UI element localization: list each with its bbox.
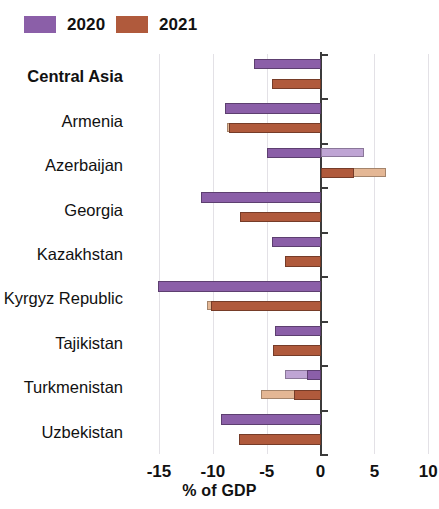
category-label: Kyrgyz Republic (0, 290, 123, 307)
bar-2021 (285, 256, 321, 266)
legend-label-2020: 2020 (67, 16, 105, 33)
category-tickmark (321, 276, 328, 278)
chart-legend: 2020 2021 (0, 0, 439, 46)
category-tickmark (321, 321, 328, 323)
category-tickmark (321, 98, 328, 100)
legend-label-2021: 2021 (159, 16, 197, 33)
bar-2020 (254, 59, 321, 69)
category-label: Turkmenistan (0, 379, 123, 396)
bar-2020 (221, 414, 320, 424)
bar-2020 (225, 103, 321, 113)
gridline-5 (374, 54, 375, 454)
bar-2021 (239, 434, 321, 444)
bar-2020 (272, 237, 320, 247)
bar-2020 (307, 370, 321, 380)
bar-2021 (211, 301, 321, 311)
x-tick-label--5: -5 (237, 463, 297, 480)
x-axis-title: % of GDP (0, 482, 439, 500)
category-label: Uzbekistan (0, 424, 123, 441)
category-label: Central Asia (0, 68, 123, 85)
bar-chart: Central AsiaArmeniaAzerbaijanGeorgiaKaza… (0, 46, 439, 509)
x-tick-label-0: 0 (291, 463, 351, 480)
bar-2020 (275, 326, 320, 336)
category-tickmark (321, 365, 328, 367)
x-tick-label-10: 10 (398, 463, 439, 480)
category-tickmark (321, 232, 328, 234)
category-label: Georgia (0, 202, 123, 219)
gridline-10 (428, 54, 429, 454)
bar-2020-secondary (321, 148, 364, 157)
x-tick-label--15: -15 (129, 463, 189, 480)
gridline--10 (213, 54, 214, 454)
x-tick-label--10: -10 (183, 463, 243, 480)
legend-item-2020: 2020 (24, 14, 105, 34)
x-tick-label-5: 5 (344, 463, 404, 480)
bar-2020 (201, 192, 321, 202)
category-label: Kazakhstan (0, 246, 123, 263)
gridline--15 (159, 54, 160, 454)
category-tickmark (321, 143, 328, 145)
bar-2020 (267, 148, 321, 158)
bar-2021 (240, 212, 321, 222)
legend-swatch-2021 (116, 16, 148, 33)
bar-2021 (229, 123, 321, 133)
category-label: Armenia (0, 113, 123, 130)
bar-2021 (273, 345, 320, 355)
bar-2021 (294, 390, 321, 400)
bar-2020 (158, 281, 321, 291)
category-label: Tajikistan (0, 335, 123, 352)
bar-2021 (272, 79, 320, 89)
category-tickmark (321, 187, 328, 189)
axis-cap-bottom (321, 454, 328, 456)
axis-cap-top (321, 54, 328, 56)
category-label: Azerbaijan (0, 157, 123, 174)
legend-item-2021: 2021 (116, 14, 197, 34)
bar-2021 (321, 168, 354, 178)
category-tickmark (321, 410, 328, 412)
plot-area (131, 54, 439, 454)
legend-swatch-2020 (24, 16, 56, 33)
